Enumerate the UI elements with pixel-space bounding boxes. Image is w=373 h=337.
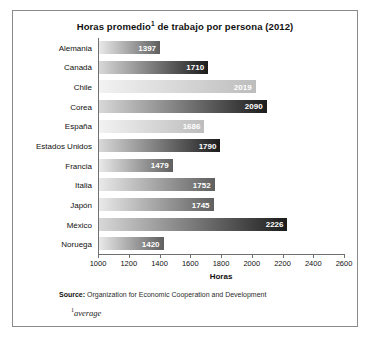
bar-row: Canadá1710 [98,58,344,78]
bar: 1790 [99,139,220,152]
x-axis-tick [344,254,345,258]
chart-title: Horas promedio1 de trabajo por persona (… [13,20,357,32]
bar-row: Noruega1420 [98,234,344,254]
bar-row: Italia1752 [98,175,344,195]
chart-frame: Horas promedio1 de trabajo por persona (… [12,10,358,327]
y-axis-tick-label: Noruega [61,240,92,249]
bar-row: Corea2090 [98,97,344,117]
y-axis-tick-label: Corea [70,102,92,111]
x-axis-tick [221,254,222,258]
source-label: Source: [59,291,85,298]
y-axis-tick-label: Alemania [59,43,92,52]
bar: 1686 [99,120,204,133]
bar-value-label: 1710 [186,63,204,72]
y-axis-tick-label: Canadá [64,63,92,72]
footnote: 1average [71,307,101,318]
x-axis-label: Horas [98,272,344,281]
x-axis-tick [190,254,191,258]
bar-row: Chile2019 [98,77,344,97]
x-axis-tick [160,254,161,258]
bar: 2090 [99,100,267,113]
bar-value-label: 1745 [192,200,210,209]
bar: 2226 [99,218,287,231]
bar-row: Francia1479 [98,156,344,176]
bar-row: Alemania1397 [98,38,344,58]
bar-value-label: 1479 [151,161,169,170]
bar: 1420 [99,237,164,250]
x-axis-tick [129,254,130,258]
x-axis-tick-label: 2200 [274,259,291,268]
x-axis-tick-label: 2400 [305,259,322,268]
y-axis-tick-label: Chile [74,83,92,92]
bar-value-label: 1752 [193,180,211,189]
bar-value-label: 2019 [234,82,252,91]
bar-row: Estados Unidos1790 [98,136,344,156]
y-axis-tick-label: México [67,220,92,229]
x-axis-tick-label: 1400 [151,259,168,268]
y-axis-tick-label: Francia [65,161,92,170]
footnote-text: average [74,308,101,318]
bar-value-label: 2226 [266,220,284,229]
y-axis-tick-label: España [65,122,92,131]
x-axis-tick [313,254,314,258]
x-axis-tick-label: 1800 [213,259,230,268]
x-axis-tick-label: 1200 [120,259,137,268]
bar: 1752 [99,178,215,191]
y-axis-tick-label: Italia [75,181,92,190]
bar-row: México2226 [98,215,344,235]
chart-title-main: Horas promedio [77,21,151,32]
x-axis-tick [283,254,284,258]
x-axis-tick [252,254,253,258]
y-axis-tick-label: Japón [70,200,92,209]
x-axis-tick-label: 1000 [90,259,107,268]
bar: 1745 [99,198,214,211]
bar-value-label: 1420 [142,239,160,248]
x-axis-tick [98,254,99,258]
x-axis-tick-label: 2600 [336,259,353,268]
bar-value-label: 2090 [245,102,263,111]
chart-title-rest: de trabajo por persona (2012) [155,21,294,32]
bar-row: España1686 [98,117,344,137]
bar-value-label: 1790 [199,141,217,150]
x-axis-tick-label: 2000 [243,259,260,268]
bar: 1710 [99,61,208,74]
x-axis-tick-label: 1600 [182,259,199,268]
plot-area: Alemania1397Canadá1710Chile2019Corea2090… [98,38,344,254]
bar-value-label: 1397 [138,43,156,52]
y-axis-tick-label: Estados Unidos [36,141,92,150]
source-note: Source: Organization for Economic Cooper… [59,291,266,298]
bar: 1397 [99,41,160,54]
bar-row: Japón1745 [98,195,344,215]
source-text: Organization for Economic Cooperation an… [85,291,266,298]
bar-value-label: 1686 [183,122,201,131]
bar: 1479 [99,159,173,172]
bar: 2019 [99,80,256,93]
